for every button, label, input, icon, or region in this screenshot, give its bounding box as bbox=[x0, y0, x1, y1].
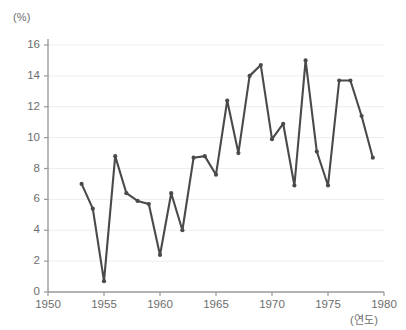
data-point-marker bbox=[360, 114, 364, 118]
x-axis-tick-label: 1975 bbox=[308, 298, 348, 310]
y-axis-tick-label: 6 bbox=[14, 192, 40, 204]
data-point-marker bbox=[326, 183, 330, 187]
data-point-marker bbox=[147, 202, 151, 206]
data-point-marker bbox=[292, 183, 296, 187]
chart-container: (%) 0246810121416 1950195519601965197019… bbox=[0, 0, 406, 330]
data-point-marker bbox=[80, 182, 84, 186]
data-point-marker bbox=[136, 199, 140, 203]
data-point-marker bbox=[102, 279, 106, 283]
data-point-marker bbox=[348, 78, 352, 82]
data-point-marker bbox=[169, 191, 173, 195]
y-axis-tick-label: 14 bbox=[14, 69, 40, 81]
data-point-marker bbox=[259, 63, 263, 67]
data-point-marker bbox=[270, 137, 274, 141]
y-axis-tick-label: 12 bbox=[14, 100, 40, 112]
data-point-marker bbox=[124, 191, 128, 195]
x-axis-unit-label: (연도) bbox=[350, 311, 378, 327]
data-point-marker bbox=[203, 154, 207, 158]
x-axis-tick-label: 1965 bbox=[196, 298, 236, 310]
x-axis-tick-label: 1970 bbox=[252, 298, 292, 310]
x-axis-tick-label: 1980 bbox=[364, 298, 404, 310]
data-series-line bbox=[82, 60, 373, 281]
data-point-marker bbox=[91, 207, 95, 211]
data-point-marker bbox=[371, 156, 375, 160]
y-axis-tick-label: 4 bbox=[14, 223, 40, 235]
data-point-marker bbox=[281, 122, 285, 126]
data-point-marker bbox=[225, 98, 229, 102]
data-point-marker bbox=[113, 154, 117, 158]
data-point-marker bbox=[248, 74, 252, 78]
data-point-marker bbox=[180, 228, 184, 232]
y-axis-tick-label: 16 bbox=[14, 38, 40, 50]
data-point-marker bbox=[158, 253, 162, 257]
y-axis-tick-label: 10 bbox=[14, 131, 40, 143]
data-point-marker bbox=[192, 156, 196, 160]
line-chart-plot bbox=[0, 0, 406, 330]
data-point-marker bbox=[236, 151, 240, 155]
y-axis-tick-label: 8 bbox=[14, 162, 40, 174]
data-point-marker bbox=[214, 173, 218, 177]
x-axis-tick-label: 1950 bbox=[28, 298, 68, 310]
y-axis-tick-label: 0 bbox=[14, 285, 40, 297]
data-point-marker bbox=[315, 149, 319, 153]
x-axis-tick-label: 1955 bbox=[84, 298, 124, 310]
data-point-marker bbox=[337, 78, 341, 82]
y-axis-tick-label: 2 bbox=[14, 254, 40, 266]
x-axis-tick-label: 1960 bbox=[140, 298, 180, 310]
data-point-marker bbox=[304, 58, 308, 62]
